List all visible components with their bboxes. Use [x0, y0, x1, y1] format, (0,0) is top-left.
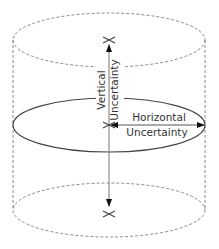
top-x-marker: [103, 37, 115, 43]
bottom-x-marker: [103, 211, 115, 217]
vertical-label-line2: Uncertainty: [108, 59, 120, 120]
horizontal-label-line1: Horizontal: [132, 111, 186, 123]
horizontal-label-line2: Uncertainty: [126, 126, 187, 138]
cylinder-uncertainty-diagram: Vertical Uncertainty Horizontal Uncertai…: [0, 0, 219, 249]
vertical-label-line1: Vertical: [95, 70, 107, 109]
